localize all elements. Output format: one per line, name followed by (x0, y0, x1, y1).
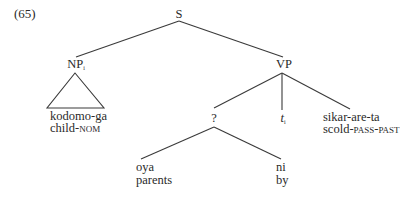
verb-gloss-tag: PASS-PAST (354, 122, 400, 136)
node-unknown-label: ? (211, 111, 217, 125)
node-np-index: i (83, 65, 85, 71)
edge-unknown-ni (214, 127, 281, 159)
edge-vp-unknown (214, 73, 282, 108)
node-s: S (176, 8, 183, 20)
np-triangle (47, 73, 104, 108)
edge-unknown-oya (141, 127, 214, 159)
np-gloss: child-NOM (50, 122, 100, 134)
node-vp: VP (276, 58, 292, 70)
node-trace-index: i (284, 119, 286, 125)
node-np-label: NP (67, 57, 83, 71)
ni-words: ni (276, 161, 286, 173)
verb-gloss: scold-PASS-PAST (323, 123, 400, 135)
edge-s-np (76, 21, 179, 57)
oya-gloss: parents (136, 174, 172, 186)
node-s-label: S (176, 7, 183, 21)
ni-gloss: by (276, 174, 289, 186)
verb-gloss-stem: scold- (323, 122, 354, 136)
np-gloss-tag: NOM (79, 121, 100, 135)
node-np: NPi (67, 58, 85, 74)
edge-vp-verb (282, 73, 350, 109)
oya-words: oya (136, 161, 154, 173)
edge-s-vp (179, 21, 283, 57)
np-gloss-stem: child- (50, 121, 79, 135)
syntax-tree-lines (0, 0, 416, 200)
node-vp-label: VP (276, 57, 292, 71)
node-unknown: ? (211, 112, 217, 124)
example-number: (65) (14, 8, 36, 20)
node-trace: ti (280, 112, 285, 128)
